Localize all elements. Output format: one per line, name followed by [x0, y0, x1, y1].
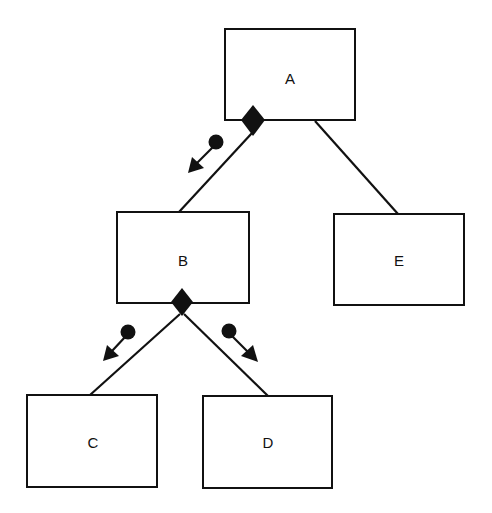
module-a: A — [225, 29, 355, 120]
module-e-label: E — [394, 252, 404, 269]
filled-circle-icon — [121, 325, 136, 340]
edge-a-e — [315, 121, 398, 214]
filled-circle-icon — [222, 324, 237, 339]
edge-b-c — [90, 314, 180, 395]
control-couple-a-b — [188, 135, 224, 174]
control-couple-b-c — [103, 325, 136, 362]
module-d-label: D — [263, 434, 274, 451]
module-e: E — [334, 214, 464, 305]
module-c: C — [27, 395, 157, 487]
module-c-label: C — [88, 434, 99, 451]
filled-circle-icon — [209, 135, 224, 150]
module-b-label: B — [178, 252, 188, 269]
module-a-label: A — [285, 70, 295, 87]
module-d: D — [203, 396, 332, 488]
structure-chart: A B E C D — [0, 0, 492, 513]
